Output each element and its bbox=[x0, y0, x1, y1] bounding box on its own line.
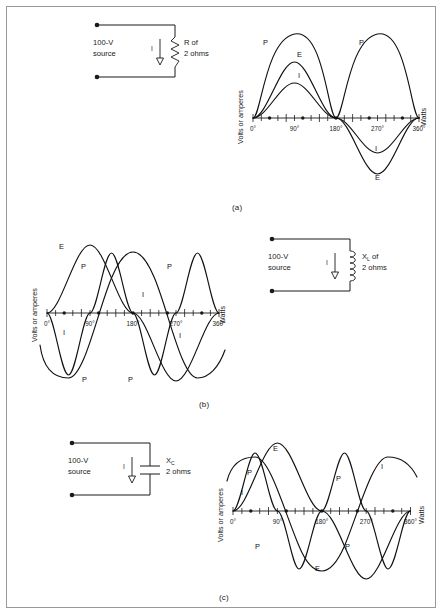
plot-a-xtick-0: 0° bbox=[250, 125, 257, 132]
curve-label-b-7: P bbox=[128, 375, 133, 384]
plot-c-y2label: Watts bbox=[417, 506, 426, 525]
component-label-c-line1: XC bbox=[166, 456, 175, 466]
plot-a-xtick-4: 360° bbox=[412, 125, 426, 132]
curve-label-c-0: E bbox=[273, 444, 278, 453]
resistor-symbol-a bbox=[171, 37, 179, 67]
plot-b: Volts or amperes Watts bbox=[29, 225, 234, 403]
component-label-a-line1: R of bbox=[184, 38, 199, 47]
curve-label-b-2: P bbox=[167, 262, 172, 271]
plot-b-ylabel: Volts or amperes bbox=[30, 288, 39, 342]
wire-top-b bbox=[272, 239, 350, 251]
plot-c-ylabel: Volts or amperes bbox=[216, 488, 225, 542]
plot-c: Volts or amperes Watts bbox=[215, 427, 435, 599]
current-arrowhead-a bbox=[157, 58, 164, 65]
curve-label-c-6: P bbox=[345, 542, 350, 551]
source-label-a-line2: source bbox=[93, 49, 116, 58]
curve-a-power bbox=[253, 34, 419, 118]
curve-label-c-3: P bbox=[336, 474, 341, 483]
curve-label-b-3: I bbox=[142, 290, 144, 299]
circuit-b-inductive: I 100-V source XL of 2 ohms bbox=[262, 229, 407, 309]
source-label-b-line1: 100-V bbox=[268, 252, 289, 261]
curve-label-c-4: I bbox=[381, 462, 383, 471]
curve-b-current bbox=[40, 252, 225, 378]
circuit-c-capacitive: I 100-V source XC 2 ohms bbox=[62, 433, 207, 513]
source-label-c-line2: source bbox=[68, 467, 91, 476]
curve-label-a-4: I bbox=[375, 144, 377, 153]
source-label-c-line1: 100-V bbox=[68, 456, 89, 465]
curve-label-a-5: E bbox=[375, 173, 380, 182]
curve-label-a-0: P bbox=[263, 38, 268, 47]
source-label-b-line2: source bbox=[268, 263, 291, 272]
plot-a: Volts or amperes Watts bbox=[235, 15, 435, 210]
curve-label-b-1: P bbox=[81, 262, 86, 271]
capacitor-symbol-c bbox=[140, 466, 160, 474]
curve-c-current bbox=[227, 457, 417, 571]
panel-a: I 100-V source R of 2 ohms Volts or ampe… bbox=[7, 7, 435, 217]
source-label-a-line1: 100-V bbox=[93, 38, 114, 47]
current-arrowhead-b bbox=[332, 272, 339, 279]
component-label-b-line1: XL of bbox=[362, 252, 379, 262]
component-label-b-line2: 2 ohms bbox=[362, 263, 387, 272]
curve-label-c-1: P bbox=[247, 468, 252, 477]
wire-top-a bbox=[97, 25, 175, 37]
wire-bottom-b bbox=[272, 283, 350, 291]
plot-a-ylabel: Volts or amperes bbox=[236, 90, 245, 144]
curve-label-b-0: E bbox=[59, 242, 64, 251]
plot-b-xtick-0: 0° bbox=[44, 320, 51, 327]
curve-label-c-7: E bbox=[315, 564, 320, 573]
component-b-tail: of bbox=[370, 252, 379, 261]
circuit-a-resistive: I 100-V source R of 2 ohms bbox=[87, 15, 227, 95]
panel-c-caption: (c) bbox=[219, 593, 229, 602]
plot-c-xtick-1: 90° bbox=[273, 518, 283, 525]
inductor-symbol-b bbox=[350, 251, 355, 283]
plot-a-xtick-3: 270° bbox=[371, 125, 385, 132]
plot-a-xtick-1: 90° bbox=[290, 125, 300, 132]
current-label-b: I bbox=[326, 259, 328, 266]
figure-frame: I 100-V source R of 2 ohms Volts or ampe… bbox=[6, 6, 436, 608]
current-arrowhead-c bbox=[129, 476, 136, 483]
curve-label-b-6: P bbox=[82, 375, 87, 384]
curve-label-c-5: P bbox=[255, 542, 260, 551]
wire-bottom-c bbox=[72, 474, 150, 495]
component-label-a-line2: 2 ohms bbox=[184, 49, 209, 58]
curve-label-b-5: I bbox=[179, 331, 181, 340]
wire-bottom-a bbox=[97, 67, 175, 77]
curve-label-a-3: P bbox=[359, 38, 364, 47]
current-label-a: I bbox=[151, 45, 153, 52]
component-c-subscript: C bbox=[171, 460, 175, 466]
panel-b: Volts or amperes Watts bbox=[7, 217, 435, 415]
curve-label-b-4: I bbox=[63, 328, 65, 337]
plot-c-xtick-0: 0° bbox=[230, 518, 237, 525]
plot-b-xtick-4: 360° bbox=[212, 320, 226, 327]
panel-c: I 100-V source XC 2 ohms Volts or ampere… bbox=[7, 415, 435, 609]
curve-label-c-2: I bbox=[241, 488, 243, 497]
plot-c-xtick-2: 180° bbox=[315, 518, 329, 525]
plot-a-xtick-2: 180° bbox=[329, 125, 343, 132]
plot-a-y2label: Watts bbox=[419, 108, 428, 127]
curve-label-a-2: I bbox=[298, 71, 300, 80]
panel-b-caption: (b) bbox=[199, 400, 209, 409]
panel-a-caption: (a) bbox=[232, 203, 242, 212]
current-label-c: I bbox=[123, 463, 125, 470]
curve-label-a-1: E bbox=[297, 50, 302, 59]
component-label-c-line2: 2 ohms bbox=[166, 467, 191, 476]
plot-b-xtick-1: 90° bbox=[85, 320, 95, 327]
